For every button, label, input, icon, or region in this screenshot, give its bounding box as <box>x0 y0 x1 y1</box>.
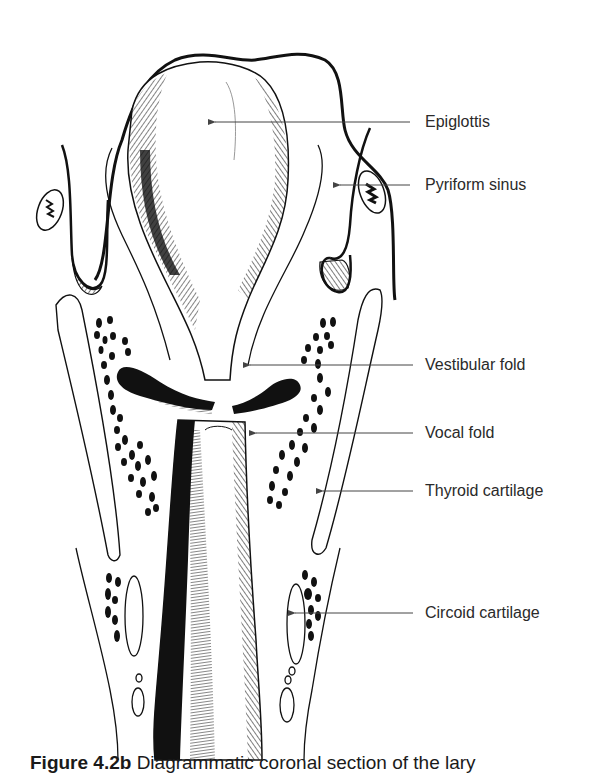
label-vestibular-fold: Vestibular fold <box>425 356 526 374</box>
label-circoid-cartilage: Circoid cartilage <box>425 604 540 622</box>
epiglottis-body <box>128 62 289 380</box>
larynx-diagram: Epiglottis Pyriform sinus Vestibular fol… <box>0 0 611 776</box>
figure-number: Figure 4.2b <box>30 752 131 773</box>
vessel-right <box>353 167 391 217</box>
label-epiglottis: Epiglottis <box>425 113 490 131</box>
ventricle-right <box>232 379 301 414</box>
label-vocal-fold: Vocal fold <box>425 424 494 442</box>
label-thyroid-cartilage: Thyroid cartilage <box>425 482 543 500</box>
figure-caption: Figure 4.2b Diagrammatic coronal section… <box>30 752 476 774</box>
muscle-dots-right <box>267 317 336 509</box>
vessel-left <box>32 186 69 234</box>
label-pyriform-sinus: Pyriform sinus <box>425 176 526 194</box>
larynx-illustration <box>0 0 611 776</box>
trachea <box>154 420 262 760</box>
figure-caption-text: Diagrammatic coronal section of the lary <box>137 752 476 773</box>
